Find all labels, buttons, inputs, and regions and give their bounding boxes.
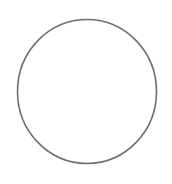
canvas-background — [0, 0, 172, 184]
figure-canvas — [0, 0, 172, 184]
figure-root: Circle Outline A single thin gray circle… — [0, 0, 172, 184]
